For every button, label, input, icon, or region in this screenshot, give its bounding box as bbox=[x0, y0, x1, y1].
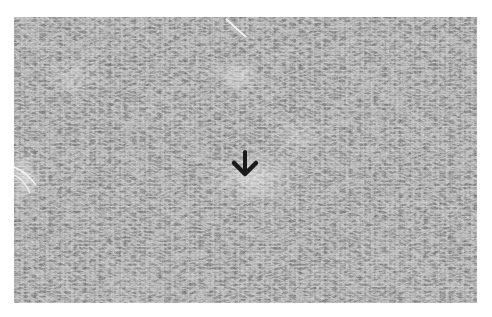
arrow-down-icon bbox=[230, 149, 260, 179]
histology-micrograph bbox=[14, 17, 477, 303]
